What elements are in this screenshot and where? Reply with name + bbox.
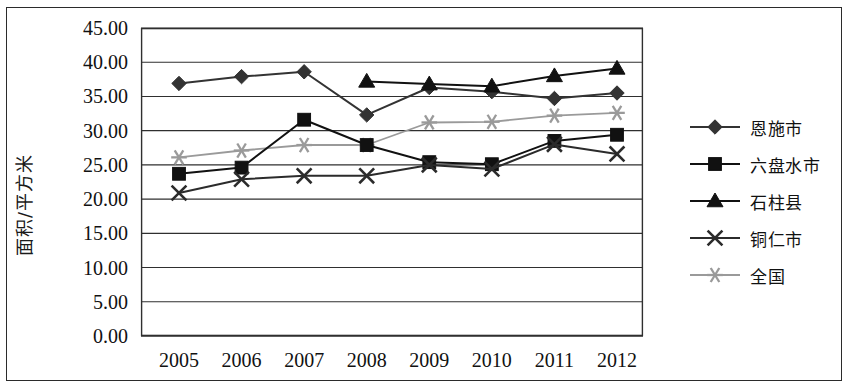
data-point-x [172,186,187,201]
legend-item-1[interactable]: 恩施市 [688,112,803,142]
diamond-marker [234,69,248,83]
y-axis-tick-label: 35.00 [55,86,128,106]
x-axis-tick-label: 2006 [222,349,262,371]
square-marker [235,161,248,174]
data-point-diamond [234,69,248,83]
y-axis-tick-labels: 0.005.0010.0015.0020.0025.0030.0035.0040… [55,25,128,335]
diamond-marker [172,76,186,90]
legend-item-3[interactable]: 石柱县 [688,186,803,216]
x-axis-tick-label: 2008 [347,349,387,371]
y-axis-tick-label: 10.00 [55,258,128,278]
data-point-triangle [359,73,375,87]
legend-label: 全国 [750,263,785,288]
data-point-square [235,161,248,174]
y-axis-tick-label: 40.00 [55,52,128,72]
legend-marker-diamond-icon [688,114,742,140]
plot-area [141,28,643,336]
data-point-square [298,113,311,126]
legend-label: 恩施市 [750,115,803,140]
diamond-marker [360,108,374,122]
legend-label: 铜仁市 [750,226,803,251]
chart-plot-svg [141,28,643,336]
diamond-marker [708,120,722,134]
data-point-asterisk [707,268,723,282]
data-point-diamond [360,108,374,122]
legend-item-5[interactable]: 全国 [688,260,785,290]
diamond-marker [610,86,624,100]
y-axis-tick-label: 20.00 [55,189,128,209]
y-axis-title-text: 面积/平方米 [10,154,36,256]
y-axis-tick-label: 25.00 [55,155,128,175]
legend-marker-triangle-icon [688,188,742,214]
legend-label: 石柱县 [750,189,803,214]
y-axis-tick-label: 5.00 [55,292,128,312]
legend-label: 六盘水市 [750,152,820,177]
data-point-square [611,128,624,141]
x-axis-tick-label: 2005 [159,349,199,371]
y-axis-tick-label: 45.00 [55,18,128,38]
legend-marker-asterisk-icon [688,262,742,288]
legend-item-4[interactable]: 铜仁市 [688,223,803,253]
data-point-asterisk [484,115,500,129]
diamond-marker [547,91,561,105]
data-point-square [709,158,722,171]
square-marker [611,128,624,141]
data-point-asterisk [547,109,563,123]
triangle-marker [707,193,723,207]
x-axis-tick-label: 2010 [472,349,512,371]
square-marker [709,158,722,171]
square-marker [360,139,373,152]
diamond-marker [297,65,311,79]
y-axis-title: 面积/平方米 [6,120,40,290]
x-axis-tick-label: 2011 [535,349,574,371]
y-axis-tick-label: 30.00 [55,121,128,141]
data-point-triangle [707,193,723,207]
data-point-diamond [547,91,561,105]
legend-item-2[interactable]: 六盘水市 [688,149,820,179]
data-point-diamond [610,86,624,100]
x-axis-tick-labels: 20052006200720082009201020112012 [140,349,660,381]
square-marker [298,113,311,126]
x-axis-tick-label: 2012 [597,349,637,371]
x-axis-tick-label: 2009 [409,349,449,371]
chart-legend: 恩施市六盘水市石柱县铜仁市全国 [688,112,838,307]
data-point-asterisk [296,138,312,152]
data-point-square [173,167,186,180]
data-point-diamond [297,65,311,79]
y-axis-tick-label: 0.00 [55,326,128,346]
data-point-asterisk [171,150,187,164]
data-point-square [360,139,373,152]
chart-figure: 面积/平方米 0.005.0010.0015.0020.0025.0030.00… [0,0,850,390]
series-3 [359,60,625,92]
data-point-diamond [708,120,722,134]
data-point-diamond [172,76,186,90]
y-axis-tick-label: 15.00 [55,223,128,243]
legend-marker-square-icon [688,151,742,177]
x-axis-tick-label: 2007 [284,349,324,371]
square-marker [173,167,186,180]
legend-marker-x-icon [688,225,742,251]
triangle-marker [359,73,375,87]
data-point-asterisk [609,106,625,120]
data-point-asterisk [234,143,250,157]
data-point-asterisk [421,115,437,129]
